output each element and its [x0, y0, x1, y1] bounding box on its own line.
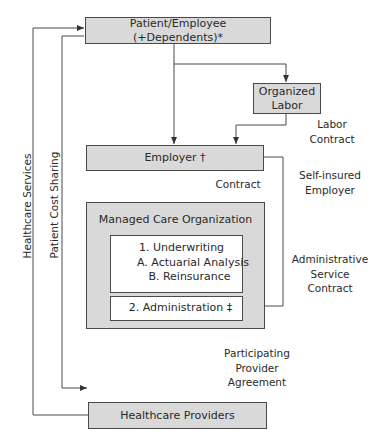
managed-care-organization-node: Managed Care Organization 1. Underwritin… [86, 202, 265, 329]
mco-title: Managed Care Organization [87, 213, 264, 227]
admin-service-line-1: Administrative [287, 252, 373, 267]
patient-cost-sharing-line [62, 36, 87, 388]
employer-label: Employer † [144, 151, 205, 165]
organized-labor-node: Organized Labor [253, 83, 321, 114]
labor-contract-line-1: Labor [302, 117, 362, 132]
organized-labor-label-1: Organized [259, 85, 315, 99]
underwriting-item: 1. Underwriting [121, 241, 242, 256]
participating-line-3: Agreement [222, 375, 292, 390]
self-insured-line-1: Self-insured [290, 168, 370, 183]
admin-service-line-3: Contract [287, 281, 373, 296]
employer-node: Employer † [86, 145, 264, 171]
self-insured-employer-label: Self-insured Employer [290, 168, 370, 197]
administration-box: 2. Administration ‡ [110, 296, 243, 321]
patient-to-labor-line [174, 64, 286, 82]
contract-label: Contract [208, 177, 268, 192]
self-insured-line-2: Employer [290, 183, 370, 198]
healthcare-providers-node: Healthcare Providers [88, 402, 267, 429]
labor-contract-line-2: Contract [302, 132, 362, 147]
patient-cost-sharing-label: Patient Cost Sharing [48, 145, 60, 265]
admin-service-line-2: Service [287, 267, 373, 282]
administration-item: 2. Administration ‡ [119, 301, 242, 316]
participating-provider-agreement-label: Participating Provider Agreement [222, 346, 292, 390]
participating-line-1: Participating [222, 346, 292, 361]
healthcare-services-line [33, 28, 88, 415]
contract-line: Contract [208, 177, 268, 192]
labor-to-employer-line [236, 113, 286, 144]
labor-contract-label: Labor Contract [302, 117, 362, 146]
participating-line-2: Provider [222, 361, 292, 376]
healthcare-services-label: Healthcare Services [21, 146, 33, 266]
patient-employee-label: Patient/Employee (+Dependents)* [86, 17, 270, 45]
underwriting-box: 1. Underwriting A. Actuarial Analysis B.… [110, 235, 243, 293]
organized-labor-label-2: Labor [271, 99, 302, 113]
patient-employee-node: Patient/Employee (+Dependents)* [85, 17, 271, 44]
actuarial-analysis-item: A. Actuarial Analysis [121, 256, 242, 271]
healthcare-providers-label: Healthcare Providers [120, 409, 234, 423]
administrative-service-contract-label: Administrative Service Contract [287, 252, 373, 296]
reinsurance-item: B. Reinsurance [121, 270, 242, 285]
